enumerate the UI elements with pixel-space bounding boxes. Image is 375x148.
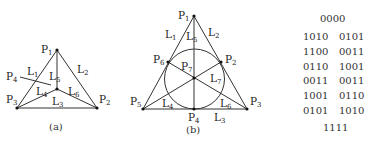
label-p2: P2 bbox=[225, 53, 237, 67]
label-p1: P1 bbox=[41, 43, 53, 57]
codeword-right: 0101 bbox=[339, 31, 364, 42]
label-l2: L2 bbox=[77, 63, 88, 77]
codeword-right: 0011 bbox=[339, 46, 364, 57]
caption-b: (b) bbox=[186, 124, 200, 135]
point-p7 bbox=[192, 76, 195, 79]
codeword-left: 1100 bbox=[303, 46, 328, 57]
point-p5 bbox=[141, 107, 144, 110]
codeword-left: 0101 bbox=[303, 105, 328, 116]
label-p3: P3 bbox=[6, 93, 18, 107]
label-l5: L5 bbox=[49, 70, 60, 84]
point-p2 bbox=[219, 60, 222, 63]
codeword-right: 0011 bbox=[339, 75, 364, 86]
codeword-left: 0011 bbox=[303, 75, 328, 86]
label-l1: L1 bbox=[27, 65, 38, 79]
codeword-list: 0000 1010 0101 1100 0011 0110 1001 0011 … bbox=[290, 0, 375, 148]
point-p1 bbox=[192, 14, 195, 17]
codeword-left: 0110 bbox=[303, 61, 328, 72]
label-p4: P4 bbox=[188, 111, 200, 125]
point-p4 bbox=[55, 87, 58, 90]
label-l3: L3 bbox=[214, 111, 225, 125]
label-l6: L6 bbox=[68, 85, 80, 99]
codeword-top: 0000 bbox=[320, 13, 345, 24]
label-l3: L3 bbox=[52, 95, 63, 109]
point-p3 bbox=[245, 107, 248, 110]
figure-a: P1 P2 P3 P4 L1 L2 L3 L4 L5 L6 (a) bbox=[6, 43, 111, 132]
label-p7: P7 bbox=[181, 60, 193, 74]
point-p2 bbox=[95, 106, 98, 109]
point-p6 bbox=[166, 60, 169, 63]
label-l7: L7 bbox=[210, 72, 221, 86]
codeword-right: 1010 bbox=[339, 105, 364, 116]
line-l2 bbox=[57, 50, 97, 108]
codeword-bottom: 1111 bbox=[323, 122, 348, 133]
label-l4: L4 bbox=[36, 85, 48, 99]
line-l6 bbox=[168, 62, 247, 109]
codeword-right: 0110 bbox=[339, 90, 364, 101]
figure-b: P1 P2 P3 P4 P5 P6 P7 L1 L2 L3 L4 L5 L6 L… bbox=[130, 9, 262, 135]
label-p4: P4 bbox=[6, 70, 18, 84]
label-p2: P2 bbox=[99, 93, 111, 107]
label-l5: L5 bbox=[186, 30, 197, 44]
point-p1 bbox=[55, 48, 58, 51]
label-p5: P5 bbox=[130, 95, 142, 109]
label-p1: P1 bbox=[178, 9, 190, 23]
label-l2: L2 bbox=[208, 26, 219, 40]
caption-a: (a) bbox=[49, 121, 63, 132]
codeword-left: 1001 bbox=[303, 90, 328, 101]
label-l1: L1 bbox=[165, 28, 176, 42]
codeword-left: 1010 bbox=[303, 31, 328, 42]
label-p6: P6 bbox=[153, 53, 165, 67]
codeword-right: 1001 bbox=[339, 61, 364, 72]
label-p3: P3 bbox=[250, 95, 262, 109]
